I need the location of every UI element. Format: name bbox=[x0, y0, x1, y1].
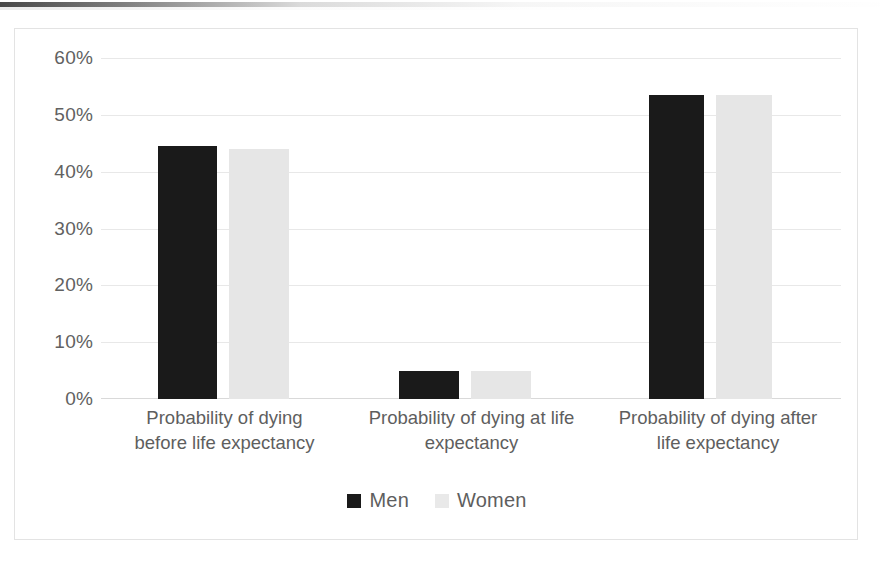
y-axis: 60% 50% 40% 30% 20% 10% 0% bbox=[23, 58, 93, 399]
x-axis-label-at-life-expectancy: Probability of dying at life expectancy bbox=[348, 405, 595, 455]
x-axis-label-line-2: expectancy bbox=[348, 430, 595, 455]
bar-men-at-life-expectancy[interactable] bbox=[399, 371, 459, 399]
y-axis-tick-10: 10% bbox=[31, 331, 93, 353]
x-axis-label-line-2: before life expectancy bbox=[101, 430, 348, 455]
bar-women-after-life-expectancy[interactable] bbox=[716, 95, 772, 399]
y-axis-tick-0: 0% bbox=[31, 388, 93, 410]
x-axis-label-before-life-expectancy: Probability of dying before life expecta… bbox=[101, 405, 348, 455]
y-axis-tick-50: 50% bbox=[31, 104, 93, 126]
legend-swatch-icon-women bbox=[435, 494, 449, 508]
scan-artifact-streak-faint bbox=[0, 7, 600, 10]
plot-area bbox=[101, 58, 841, 399]
bar-women-before-life-expectancy[interactable] bbox=[229, 149, 289, 399]
chart-container: 60% 50% 40% 30% 20% 10% 0% Probability o… bbox=[14, 28, 858, 540]
legend-swatch-icon-men bbox=[347, 494, 361, 508]
bar-men-after-life-expectancy[interactable] bbox=[649, 95, 704, 399]
y-axis-tick-40: 40% bbox=[31, 161, 93, 183]
x-axis: Probability of dying before life expecta… bbox=[101, 405, 841, 475]
x-axis-label-line-2: life expectancy bbox=[595, 430, 841, 455]
y-axis-tick-60: 60% bbox=[31, 47, 93, 69]
chart-legend: Men Women bbox=[15, 489, 859, 512]
legend-item-men[interactable]: Men bbox=[347, 489, 409, 512]
x-axis-label-line-1: Probability of dying after bbox=[595, 405, 841, 430]
x-axis-label-after-life-expectancy: Probability of dying after life expectan… bbox=[595, 405, 841, 455]
y-axis-tick-20: 20% bbox=[31, 274, 93, 296]
x-axis-label-line-1: Probability of dying at life bbox=[348, 405, 595, 430]
legend-label-women: Women bbox=[457, 489, 527, 512]
gridline-60 bbox=[101, 58, 841, 59]
bar-men-before-life-expectancy[interactable] bbox=[158, 146, 217, 399]
legend-item-women[interactable]: Women bbox=[435, 489, 527, 512]
x-axis-label-line-1: Probability of dying bbox=[101, 405, 348, 430]
legend-label-men: Men bbox=[369, 489, 409, 512]
y-axis-tick-30: 30% bbox=[31, 218, 93, 240]
bar-women-at-life-expectancy[interactable] bbox=[471, 371, 531, 399]
